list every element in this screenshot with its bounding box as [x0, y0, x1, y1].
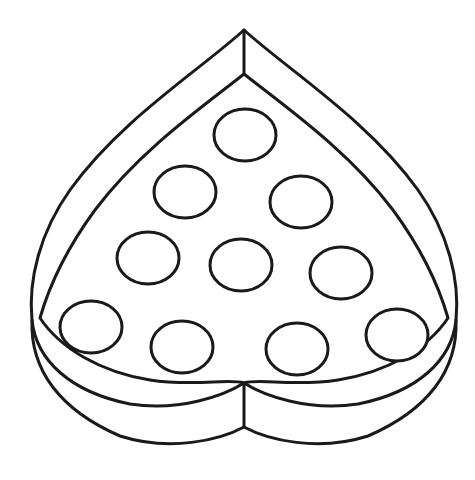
heart-box-drawing [0, 0, 475, 480]
cavity-circle-5 [210, 239, 272, 291]
cavity-circle-7 [60, 301, 122, 353]
cavity-circle-3 [270, 176, 332, 228]
cavity-circle-4 [117, 232, 179, 284]
cavity-circle-10 [366, 309, 428, 361]
heart-box-svg [0, 0, 475, 480]
cavity-circle-6 [310, 247, 372, 299]
cavity-circle-2 [154, 166, 216, 218]
cavity-circle-8 [151, 321, 213, 373]
cavities [60, 109, 428, 375]
cavity-circle-9 [266, 323, 328, 375]
cavity-circle-1 [214, 109, 276, 161]
